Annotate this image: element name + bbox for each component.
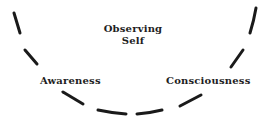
consciousness-label: Consciousness [166,75,250,87]
arc-dash [14,13,20,33]
arc-dash [250,8,256,33]
arc-dash [63,92,83,104]
observing-text: Observing [100,23,166,35]
observing-self-label: Observing Self [100,23,166,47]
arc-dash [25,50,37,64]
arc-dash [180,95,201,106]
observing-self-diagram: Observing Self Awareness Consciousness [0,0,265,119]
awareness-label: Awareness [40,75,101,87]
arc-dash [231,50,243,67]
arc-dash [137,110,162,114]
dashed-arc [0,0,265,119]
self-text: Self [100,35,166,47]
arc-dash [98,110,126,114]
